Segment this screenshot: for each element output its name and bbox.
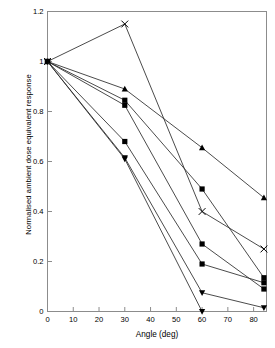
data-point-cross — [121, 21, 128, 28]
x-tick-label: 30 — [113, 315, 137, 324]
series-series-1-cross-peak — [44, 21, 267, 253]
y-tick-label: 0.8 — [18, 107, 44, 116]
data-point-square — [122, 103, 127, 108]
x-tick-label: 10 — [61, 315, 85, 324]
x-tick-label: 70 — [216, 315, 240, 324]
y-axis-label: Normalised ambient dose equivalent respo… — [24, 35, 33, 275]
y-tick-label: 0 — [18, 307, 44, 316]
series-line — [48, 24, 264, 249]
x-axis-label: Angle (deg) — [47, 330, 267, 339]
x-tick-label: 80 — [242, 315, 266, 324]
data-point-triangle-up — [199, 145, 205, 151]
y-tick-label: 0.2 — [18, 257, 44, 266]
x-tick-label: 40 — [139, 315, 163, 324]
data-point-square — [122, 98, 127, 103]
x-tick-label: 60 — [190, 315, 214, 324]
y-tick-label: 1.2 — [18, 7, 44, 16]
series-series-2-triangle-up-shallow — [44, 58, 267, 200]
y-tick-label: 0.4 — [18, 207, 44, 216]
data-point-square — [122, 139, 127, 144]
plot-canvas — [0, 0, 275, 348]
y-tick-label: 1 — [18, 57, 44, 66]
data-point-cross — [199, 208, 206, 215]
data-point-square — [261, 286, 266, 291]
x-tick-label: 50 — [164, 315, 188, 324]
x-tick-label: 0 — [36, 315, 60, 324]
series-series-5-square-lower — [45, 59, 267, 285]
series-line — [48, 62, 264, 278]
x-tick-label: 20 — [87, 315, 111, 324]
data-point-square — [199, 241, 204, 246]
data-point-square — [199, 261, 204, 266]
series-line — [48, 62, 264, 198]
series-series-3-square-upper — [45, 59, 267, 280]
series-series-7-triangle-down-steep — [44, 59, 205, 315]
chart-figure: Normalised ambient dose equivalent respo… — [0, 0, 275, 348]
y-tick-label: 0.6 — [18, 157, 44, 166]
data-point-square — [261, 275, 266, 280]
data-point-square — [261, 280, 266, 285]
data-point-square — [199, 186, 204, 191]
series-line — [48, 62, 264, 283]
